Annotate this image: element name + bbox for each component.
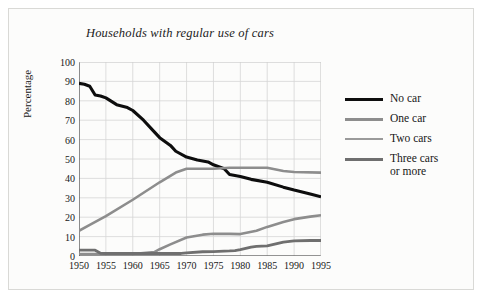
x-axis-tick-label: 1960 bbox=[123, 260, 143, 271]
legend-item[interactable]: Two cars bbox=[345, 132, 470, 145]
legend-item-label: Two cars bbox=[390, 132, 432, 145]
legend: No carOne carTwo carsThree cars or more bbox=[345, 92, 470, 185]
y-axis-tick-label: 60 bbox=[49, 134, 75, 145]
x-axis-tick-label: 1970 bbox=[177, 260, 197, 271]
x-axis-tick-label: 1950 bbox=[69, 260, 89, 271]
x-axis-tick-label: 1995 bbox=[311, 260, 331, 271]
chart-page: Households with regular use of cars Perc… bbox=[0, 0, 482, 298]
page-title: Households with regular use of cars bbox=[0, 26, 360, 41]
x-axis-tick-label: 1980 bbox=[230, 260, 250, 271]
x-axis-tick-label: 1955 bbox=[96, 260, 116, 271]
plot-area bbox=[79, 62, 321, 256]
x-axis-tick-label: 1965 bbox=[150, 260, 170, 271]
legend-item[interactable]: No car bbox=[345, 92, 470, 105]
x-axis-tick-label: 1985 bbox=[257, 260, 277, 271]
legend-item-label: Three cars or more bbox=[390, 152, 438, 178]
legend-swatch-icon bbox=[345, 158, 383, 161]
y-axis-tick-label: 100 bbox=[49, 57, 75, 68]
y-axis-title: Percentage bbox=[21, 70, 33, 118]
series-line-3 bbox=[79, 240, 321, 253]
legend-item-label: No car bbox=[390, 92, 421, 105]
y-axis-tick-label: 40 bbox=[49, 173, 75, 184]
legend-swatch-icon bbox=[345, 118, 383, 121]
y-axis-tick-label: 30 bbox=[49, 192, 75, 203]
y-axis-tick-label: 80 bbox=[49, 95, 75, 106]
x-axis-tick-labels: 1950195519601965197019751980198519901995 bbox=[79, 260, 321, 276]
legend-swatch-icon bbox=[345, 138, 383, 140]
x-axis-tick-label: 1975 bbox=[203, 260, 223, 271]
y-axis-tick-label: 10 bbox=[49, 231, 75, 242]
y-axis-tick-labels: 0102030405060708090100 bbox=[44, 62, 75, 256]
series-line-0 bbox=[79, 83, 321, 196]
y-axis-tick-label: 50 bbox=[49, 154, 75, 165]
data-series bbox=[79, 83, 321, 254]
legend-item[interactable]: One car bbox=[345, 112, 470, 125]
y-axis-tick-label: 20 bbox=[49, 212, 75, 223]
legend-swatch-icon bbox=[345, 98, 383, 101]
y-axis-tick-label: 90 bbox=[49, 76, 75, 87]
x-axis-tick-label: 1990 bbox=[284, 260, 304, 271]
line-chart-svg bbox=[79, 62, 321, 256]
y-axis-tick-label: 70 bbox=[49, 115, 75, 126]
series-line-2 bbox=[79, 215, 321, 254]
legend-item-label: One car bbox=[390, 112, 426, 125]
legend-item[interactable]: Three cars or more bbox=[345, 152, 470, 178]
